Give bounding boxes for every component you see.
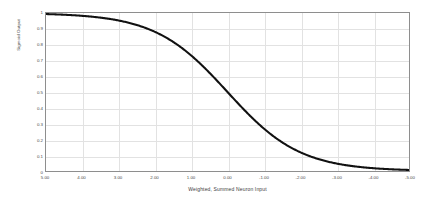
x-tick-label: 4.00 bbox=[62, 175, 102, 181]
x-tick-label: 3.00 bbox=[98, 175, 138, 181]
x-tick-label: 2.00 bbox=[135, 175, 175, 181]
y-axis-tick-labels: 10.90.80.70.60.50.40.30.20.10 bbox=[20, 12, 43, 172]
y-tick-label: 0.6 bbox=[20, 74, 43, 79]
plot-area bbox=[45, 12, 410, 172]
x-tick-label: -2.00 bbox=[281, 175, 321, 181]
x-tick-label: 0.00 bbox=[208, 175, 248, 181]
y-tick-label: 0.5 bbox=[20, 90, 43, 95]
sigmoid-curve-path bbox=[46, 14, 409, 170]
sigmoid-curve bbox=[46, 13, 409, 171]
y-tick-label: 0 bbox=[20, 170, 43, 175]
x-tick-label: 5.00 bbox=[25, 175, 65, 181]
y-tick-label: 0.2 bbox=[20, 138, 43, 143]
x-tick-label: -4.00 bbox=[354, 175, 394, 181]
y-tick-label: 0.4 bbox=[20, 106, 43, 111]
x-tick-label: -5.00 bbox=[390, 175, 425, 181]
x-tick-label: -3.00 bbox=[317, 175, 357, 181]
x-axis-tick-labels: 5.004.003.002.001.000.00-1.00-2.00-3.00-… bbox=[45, 175, 410, 183]
y-tick-label: 0.8 bbox=[20, 42, 43, 47]
sigmoid-chart-figure: Sigmoid Output 10.90.80.70.60.50.40.30.2… bbox=[0, 0, 425, 200]
y-tick-label: 1 bbox=[20, 10, 43, 15]
x-tick-label: 1.00 bbox=[171, 175, 211, 181]
x-tick-label: -1.00 bbox=[244, 175, 284, 181]
x-axis-title: Weighted, Summed Neuron Input bbox=[45, 186, 410, 192]
y-tick-label: 0.9 bbox=[20, 26, 43, 31]
y-tick-label: 0.7 bbox=[20, 58, 43, 63]
y-tick-label: 0.3 bbox=[20, 122, 43, 127]
y-tick-label: 0.1 bbox=[20, 154, 43, 159]
